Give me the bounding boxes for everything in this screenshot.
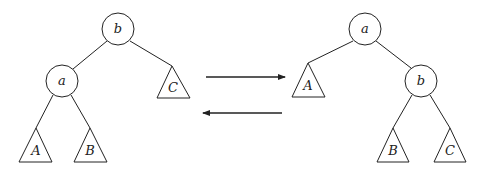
edge-b-a [73,41,107,69]
edge-b-C [430,95,450,128]
subtree-C-label: C [445,143,455,158]
subtree-A: A [19,128,52,162]
subtree-C: C [157,66,190,98]
subtree-A: A [292,63,325,97]
node-b: b [405,65,437,97]
subtree-C-label: C [168,80,178,95]
node-b: b [102,13,134,45]
edge-a-B [71,95,90,128]
node-a-label: a [58,73,66,88]
node-a: a [349,13,381,45]
subtree-A-label: A [30,143,40,158]
subtree-B-label: B [84,143,95,158]
left-tree: b a A B C [19,13,190,162]
subtree-A-label: A [302,78,312,93]
rotation-arrows [203,77,285,113]
node-a-label: a [361,21,369,36]
subtree-B-label: B [387,143,398,158]
subtree-B: B [74,128,107,162]
subtree-C: C [434,128,466,162]
rotation-diagram: b a A B C a [0,0,482,170]
edge-a-A [308,41,353,63]
node-b-label: b [417,73,425,88]
edge-b-C [130,41,172,66]
right-tree: a b A B C [292,13,466,162]
edge-b-B [393,95,412,128]
node-b-label: b [114,21,122,36]
node-a: a [46,65,78,97]
edge-a-A [36,95,53,128]
edge-a-b [376,41,411,68]
subtree-B: B [377,128,409,162]
